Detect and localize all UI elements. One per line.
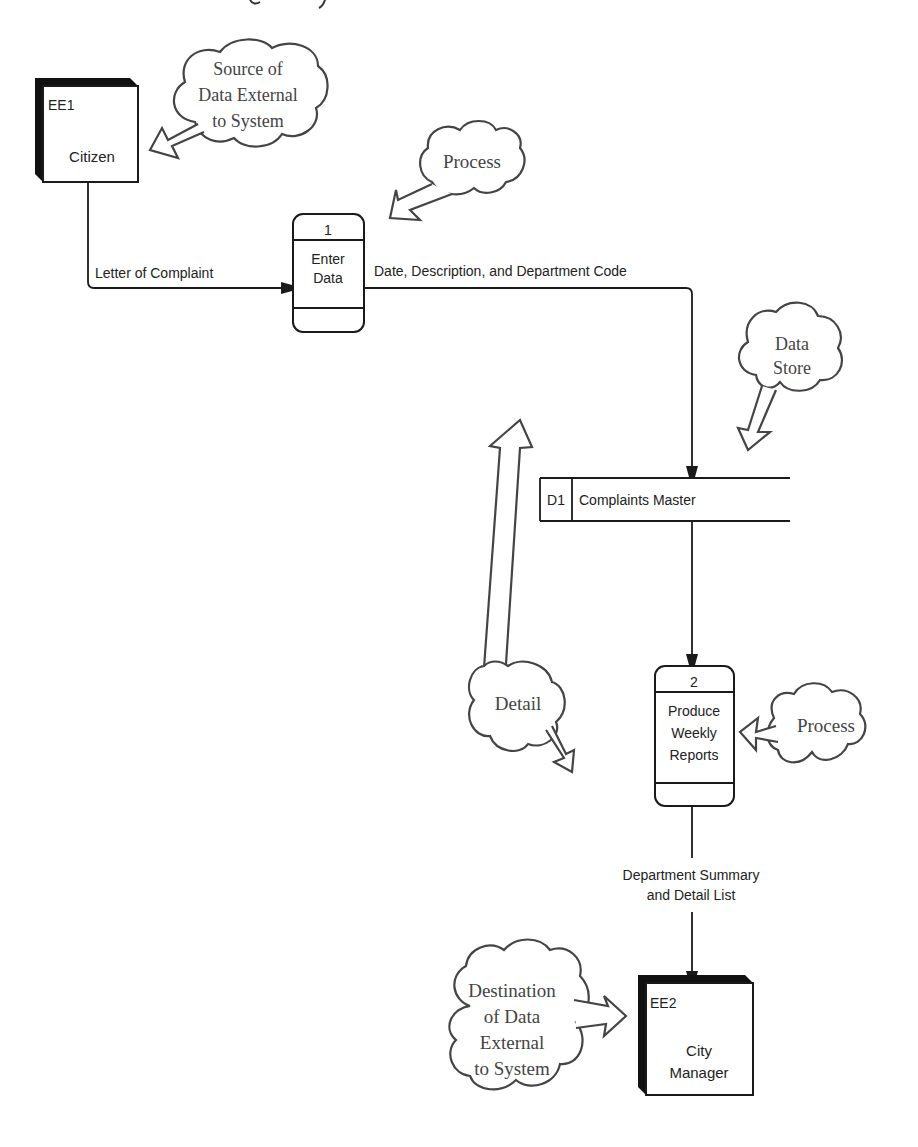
process-number: 2 <box>690 674 698 690</box>
entity-label: Manager <box>669 1064 728 1081</box>
callout-source: Source of Data External to System <box>150 39 328 158</box>
callout-destination: Destination of Data External to System <box>449 940 626 1090</box>
process-1-enter-data[interactable]: 1 Enter Data <box>293 214 364 332</box>
callout-line: of Data <box>484 1006 541 1027</box>
callout-line: Data <box>775 334 809 354</box>
callout-process-1: Process <box>390 121 524 220</box>
callout-line: Data External <box>198 85 297 105</box>
callout-data-store: Data Store <box>738 303 842 450</box>
callout-line: Store <box>773 358 811 378</box>
data-store-d1[interactable]: D1 Complaints Master <box>540 478 790 521</box>
flow-label: Letter of Complaint <box>95 265 213 281</box>
truncated-title-fragment <box>250 0 325 8</box>
callout-text: Process <box>797 715 855 736</box>
store-id: D1 <box>547 492 565 508</box>
callout-line: to System <box>212 111 284 131</box>
flow-label: Department Summary <box>623 867 760 883</box>
process-label: Reports <box>669 747 718 763</box>
entity-label: City <box>686 1042 712 1059</box>
flow-label: and Detail List <box>647 887 736 903</box>
process-2-produce-weekly-reports[interactable]: 2 Produce Weekly Reports <box>655 666 734 806</box>
process-label: Data <box>313 270 343 286</box>
process-label: Produce <box>668 703 720 719</box>
callout-line: Source of <box>213 59 282 79</box>
data-flow-diagram: EE1 Citizen Letter of Complaint Source o… <box>0 0 918 1147</box>
entity-id: EE2 <box>650 995 677 1011</box>
callout-process-2: Process <box>740 683 865 762</box>
process-label: Weekly <box>671 725 717 741</box>
entity-label: Citizen <box>69 148 115 165</box>
callout-line: to System <box>474 1058 550 1079</box>
entity-id: EE1 <box>48 97 75 113</box>
flow-department-summary[interactable]: Department Summary and Detail List <box>623 806 760 982</box>
callout-text: Process <box>443 151 501 172</box>
callout-detail: Detail <box>469 420 574 772</box>
external-entity-ee1[interactable]: EE1 Citizen <box>35 78 138 182</box>
store-label: Complaints Master <box>579 492 696 508</box>
callout-line: Destination <box>468 980 556 1001</box>
flow-label: Date, Description, and Department Code <box>374 263 627 279</box>
process-number: 1 <box>324 222 332 238</box>
process-label: Enter <box>311 251 345 267</box>
flow-letter-of-complaint[interactable]: Letter of Complaint <box>88 182 292 288</box>
external-entity-ee2[interactable]: EE2 City Manager <box>638 975 753 1095</box>
callout-text: Detail <box>495 693 541 714</box>
callout-line: External <box>480 1032 544 1053</box>
